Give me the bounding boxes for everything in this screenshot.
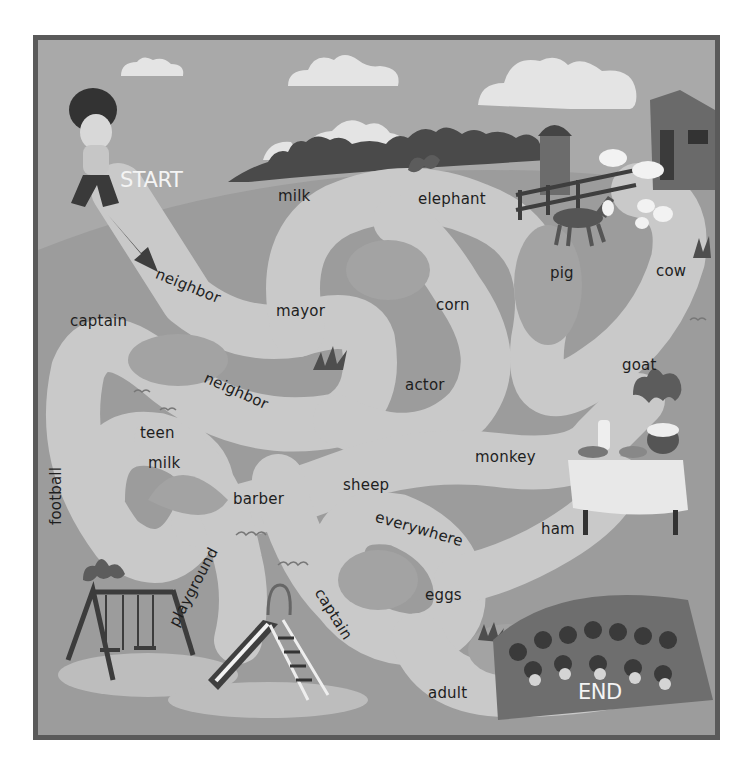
maze-word-goat[interactable]: goat (622, 356, 657, 374)
maze-word-monkey[interactable]: monkey (475, 448, 536, 466)
maze-word-mayor[interactable]: mayor (276, 302, 325, 320)
maze-word-teen[interactable]: teen (140, 424, 175, 442)
maze-word-corn[interactable]: corn (436, 296, 470, 314)
maze-word-barber[interactable]: barber (233, 490, 284, 508)
maze-word-milk[interactable]: milk (278, 187, 310, 205)
start-label: START (120, 168, 182, 192)
maze-word-pig[interactable]: pig (550, 264, 574, 282)
maze-word-sheep[interactable]: sheep (343, 476, 389, 494)
maze-scene (38, 40, 715, 735)
maze-word-ham[interactable]: ham (541, 520, 575, 538)
maze-word-eggs[interactable]: eggs (425, 586, 462, 604)
maze-word-actor[interactable]: actor (405, 376, 445, 394)
maze-word-captain[interactable]: captain (70, 312, 127, 330)
maze-word-football[interactable]: football (47, 467, 65, 525)
maze-word-cow[interactable]: cow (656, 262, 686, 280)
maze-board: START END milk elephant neighbor pig cow… (33, 35, 720, 740)
end-label: END (578, 680, 622, 704)
maze-word-elephant[interactable]: elephant (418, 190, 486, 208)
maze-word-adult[interactable]: adult (428, 684, 467, 702)
maze-word-milk[interactable]: milk (148, 454, 180, 472)
